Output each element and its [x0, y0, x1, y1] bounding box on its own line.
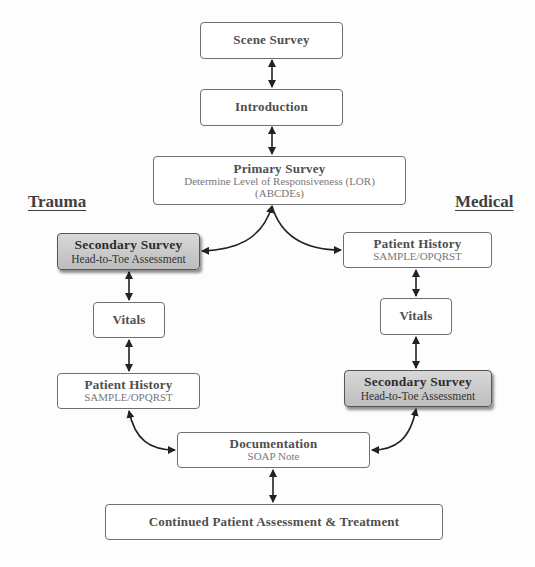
continued-assessment-node: Continued Patient Assessment & Treatment — [105, 504, 443, 540]
medical-secondary-survey-node: Secondary Survey Head-to-Toe Assessment — [344, 370, 492, 407]
node-title: Vitals — [112, 313, 145, 327]
node-subtitle: SAMPLE/OPQRST — [373, 251, 462, 263]
node-subtitle: (ABCDEs) — [255, 188, 304, 200]
medical-patient-history-node: Patient History SAMPLE/OPQRST — [343, 232, 492, 268]
node-title: Scene Survey — [233, 33, 309, 47]
node-subtitle: SOAP Note — [248, 451, 300, 463]
medical-heading: Medical — [455, 192, 514, 212]
node-title: Secondary Survey — [364, 375, 472, 390]
trauma-patient-history-node: Patient History SAMPLE/OPQRST — [57, 373, 200, 409]
connector-arrows — [0, 0, 535, 567]
node-title: Introduction — [235, 100, 308, 114]
node-title: Primary Survey — [234, 162, 326, 176]
assessment-flowchart: Trauma Medical Scene Survey Introduction… — [0, 0, 535, 567]
trauma-vitals-node: Vitals — [93, 302, 165, 338]
scene-survey-node: Scene Survey — [200, 22, 343, 59]
node-title: Patient History — [85, 378, 173, 392]
node-title: Vitals — [399, 309, 432, 323]
trauma-heading: Trauma — [28, 192, 86, 212]
medical-vitals-node: Vitals — [380, 298, 452, 335]
node-title: Secondary Survey — [75, 238, 183, 253]
node-subtitle: SAMPLE/OPQRST — [84, 392, 173, 404]
primary-survey-node: Primary Survey Determine Level of Respon… — [153, 156, 406, 205]
node-subtitle: Head-to-Toe Assessment — [361, 390, 476, 402]
node-title: Patient History — [374, 237, 462, 251]
trauma-secondary-survey-node: Secondary Survey Head-to-Toe Assessment — [57, 233, 200, 270]
node-subtitle: Determine Level of Responsiveness (LOR) — [184, 176, 375, 188]
node-title: Continued Patient Assessment & Treatment — [149, 515, 400, 529]
node-title: Documentation — [230, 437, 318, 451]
node-subtitle: Head-to-Toe Assessment — [71, 253, 186, 265]
introduction-node: Introduction — [200, 89, 343, 126]
documentation-node: Documentation SOAP Note — [177, 432, 370, 468]
